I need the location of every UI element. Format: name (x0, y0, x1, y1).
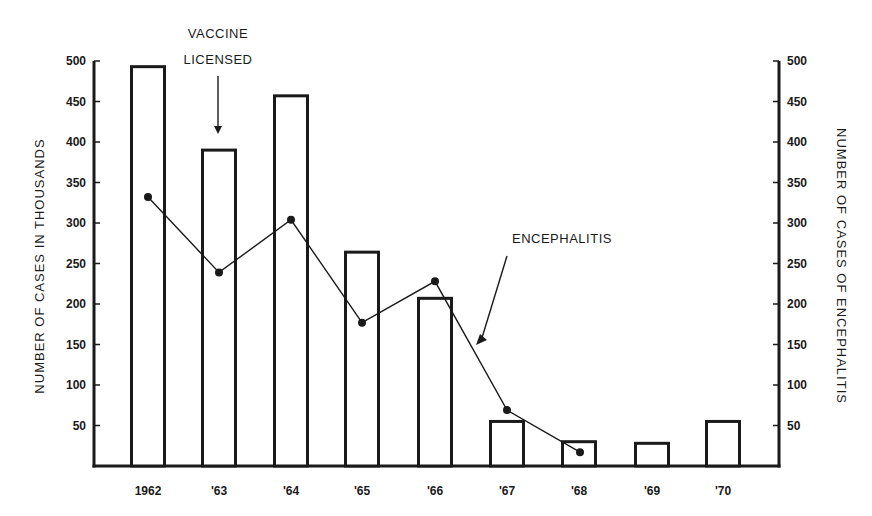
y-tick-label-right: 450 (787, 95, 807, 109)
vaccine-label-line2: LICENSED (183, 52, 252, 67)
y-tick-label-left: 400 (66, 135, 86, 149)
y-tick-label-left: 150 (66, 338, 86, 352)
y-tick-label-left: 350 (66, 176, 86, 190)
arrow-down-icon (214, 126, 222, 134)
data-point-dot (144, 193, 152, 201)
x-category-label: '66 (427, 484, 444, 498)
bar (346, 252, 379, 466)
y-tick-label-left: 50 (73, 419, 87, 433)
vaccine-licensed-annotation: VACCINE LICENSED (183, 26, 252, 134)
x-category-label: '69 (644, 484, 661, 498)
vaccine-label-line1: VACCINE (188, 26, 248, 41)
y-axis-right-title: NUMBER OF CASES OF ENCEPHALITIS (834, 128, 849, 404)
y-tick-label-right: 300 (787, 216, 807, 230)
bar (636, 443, 669, 466)
y-tick-label-left: 300 (66, 216, 86, 230)
y-tick-label-right: 250 (787, 257, 807, 271)
x-category-label: '63 (211, 484, 228, 498)
encephalitis-arrow-shaft (481, 256, 507, 341)
bar (419, 298, 452, 466)
bar (707, 421, 740, 466)
data-point-dot (287, 216, 295, 224)
y-tick-label-left: 250 (66, 257, 86, 271)
data-point-dot (503, 406, 511, 414)
y-tick-label-right: 400 (787, 135, 807, 149)
x-category-label: '64 (283, 484, 300, 498)
y-tick-label-right: 100 (787, 378, 807, 392)
bar (203, 150, 236, 466)
y-tick-label-left: 500 (66, 54, 86, 68)
bar-series (132, 67, 740, 466)
y-tick-label-right: 150 (787, 338, 807, 352)
x-category-label: '67 (499, 484, 516, 498)
data-point-dot (576, 448, 584, 456)
x-category-labels: 1962'63'64'65'66'67'68'69'70 (135, 484, 732, 498)
y-tick-label-right: 50 (787, 419, 801, 433)
y-axis-left-title: NUMBER OF CASES IN THOUSANDS (32, 138, 47, 393)
x-category-label: 1962 (135, 484, 162, 498)
data-point-dot (215, 268, 223, 276)
y-tick-label-left: 200 (66, 297, 86, 311)
arrow-icon (476, 334, 487, 345)
bar (132, 67, 165, 466)
y-tick-label-left: 450 (66, 95, 86, 109)
bar (491, 421, 524, 466)
encephalitis-annotation: ENCEPHALITIS (476, 231, 612, 345)
y-tick-label-right: 200 (787, 297, 807, 311)
data-point-dot (431, 277, 439, 285)
y-tick-label-right: 350 (787, 176, 807, 190)
bar (275, 96, 308, 466)
encephalitis-label: ENCEPHALITIS (512, 231, 612, 246)
x-category-label: '65 (354, 484, 371, 498)
data-point-dot (358, 319, 366, 327)
y-tick-label-left: 100 (66, 378, 86, 392)
x-category-label: '68 (571, 484, 588, 498)
x-category-label: '70 (715, 484, 732, 498)
measles-chart: 5050100100150150200200250250300300350350… (0, 0, 872, 516)
y-tick-label-right: 500 (787, 54, 807, 68)
